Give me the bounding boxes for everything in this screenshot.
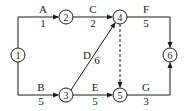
node-3: 3 xyxy=(59,88,73,102)
activity-e-duration: 5 xyxy=(92,95,98,107)
activity-f-duration: 5 xyxy=(143,17,149,29)
node-4-label: 4 xyxy=(118,12,123,23)
activity-a-name: A xyxy=(39,3,47,15)
node-6-label: 6 xyxy=(168,50,173,61)
node-2: 2 xyxy=(59,10,73,24)
activity-c-name: C xyxy=(89,3,96,15)
activity-e-name: E xyxy=(92,81,99,93)
node-6: 6 xyxy=(163,48,177,62)
node-5: 5 xyxy=(113,88,127,102)
activity-d-duration: 6 xyxy=(94,54,100,66)
activity-c-duration: 2 xyxy=(90,17,96,29)
node-4: 4 xyxy=(113,10,127,24)
edge-a xyxy=(18,17,58,48)
node-1-label: 1 xyxy=(16,50,21,61)
node-2-label: 2 xyxy=(64,12,69,23)
activity-b-name: B xyxy=(37,81,44,93)
activity-d-name: D xyxy=(83,49,91,61)
edge-d xyxy=(71,23,115,90)
activity-a-duration: 1 xyxy=(40,17,46,29)
activity-g-duration: 3 xyxy=(143,95,149,107)
network-diagram: 1 2 3 4 5 6 A 1 B 5 C 2 D 6 E 5 F 5 G 3 xyxy=(0,0,186,111)
activity-b-duration: 5 xyxy=(38,95,44,107)
activity-g-name: G xyxy=(142,81,150,93)
node-3-label: 3 xyxy=(64,90,69,101)
node-1: 1 xyxy=(11,48,25,62)
node-5-label: 5 xyxy=(118,90,123,101)
activity-f-name: F xyxy=(143,3,149,15)
